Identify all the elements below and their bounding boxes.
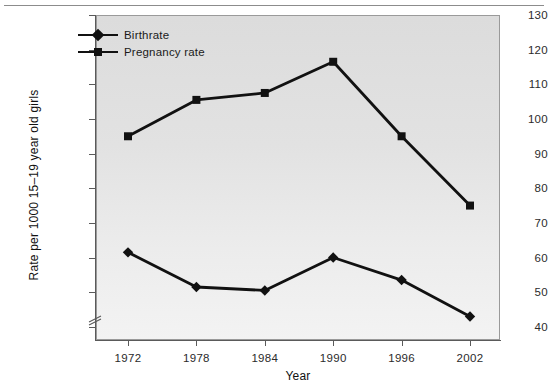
data-point-marker — [124, 132, 132, 140]
data-point-marker — [261, 89, 269, 97]
legend-item-birthrate: Birthrate — [78, 26, 205, 43]
data-point-marker — [260, 285, 270, 295]
data-point-marker — [396, 275, 406, 285]
legend-key-diamond-icon — [78, 28, 118, 42]
legend-label-pregnancy-rate: Pregnancy rate — [124, 46, 205, 58]
series-line-birthrate — [128, 252, 470, 316]
legend-item-pregnancy-rate: Pregnancy rate — [78, 43, 205, 60]
data-point-marker — [466, 202, 474, 210]
data-point-marker — [329, 58, 337, 66]
data-point-marker — [465, 311, 475, 321]
data-point-marker — [123, 247, 133, 257]
data-point-marker — [328, 252, 338, 262]
chart-legend: Birthrate Pregnancy rate — [78, 26, 205, 60]
legend-label-birthrate: Birthrate — [124, 29, 169, 41]
data-point-marker — [192, 96, 200, 104]
chart-figure: 405060708090100110120130 197219781984199… — [0, 0, 548, 386]
series-line-pregnancy-rate — [128, 62, 470, 206]
legend-key-square-icon — [78, 45, 118, 59]
data-point-marker — [398, 132, 406, 140]
data-point-marker — [191, 282, 201, 292]
